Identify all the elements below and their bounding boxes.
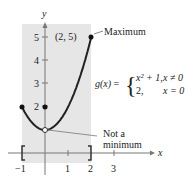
max-point <box>89 35 94 40</box>
x-axis-arrow-icon <box>150 151 155 156</box>
y-tick-label: 5 <box>34 32 39 43</box>
piece-2-cond: x = 0 <box>162 85 184 96</box>
piece-2-expr: 2, <box>136 85 144 96</box>
x-axis-label: x <box>157 147 163 158</box>
function-name: g(x) = <box>95 78 120 90</box>
piece-1-expr: x² + 1, <box>135 72 163 83</box>
y-axis-label: y <box>41 8 47 19</box>
brace: { <box>125 72 137 98</box>
x-tick-label: −1 <box>15 163 26 174</box>
chart: x y −1 1 2 3 2 3 4 5 (2, 5) Maximum Not … <box>0 0 195 185</box>
endpoint-left <box>20 105 25 110</box>
point-0-2 <box>43 105 48 110</box>
shaded-interval-region <box>22 24 91 163</box>
y-tick-label: 2 <box>34 101 39 112</box>
x-tick-label: 3 <box>111 163 116 174</box>
max-point-label: (2, 5) <box>55 31 77 43</box>
y-tick-label: 3 <box>34 78 39 89</box>
x-tick-label: 1 <box>65 163 70 174</box>
x-tick-label: 2 <box>88 163 93 174</box>
piece-1-cond: x ≠ 0 <box>162 72 183 83</box>
not-a-min-label-1: Not a <box>103 128 126 139</box>
not-a-min-label-2: minimum <box>103 139 142 150</box>
maximum-label: Maximum <box>104 26 146 37</box>
y-tick-label: 4 <box>34 55 39 66</box>
open-point-0-1 <box>43 128 48 133</box>
